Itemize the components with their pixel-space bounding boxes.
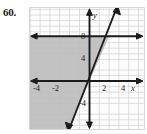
plot-svg <box>30 8 144 129</box>
y-tick-label-8: 8 <box>81 32 85 41</box>
x-tick-label--4: -4 <box>33 84 40 93</box>
coordinate-graph: -4 -2 2 4 8 4 -4 x y <box>29 7 145 130</box>
graph-plot-area: -4 -2 2 4 8 4 -4 x y <box>30 8 144 129</box>
y-axis-label: y <box>93 11 97 20</box>
shaded-solution-region <box>30 36 109 129</box>
x-axis-label: x <box>131 84 135 93</box>
problem-number: 60. <box>3 6 16 18</box>
boundary-y8-arrow-right <box>137 33 144 39</box>
x-tick-label--2: -2 <box>52 84 59 93</box>
x-tick-label-4: 4 <box>121 84 125 93</box>
y-tick-label--4: -4 <box>79 99 86 108</box>
x-tick-label-2: 2 <box>102 84 106 93</box>
y-tick-label-4: 4 <box>81 54 85 63</box>
x-axis-arrow-right <box>137 78 144 84</box>
figure-container: 60. <box>0 0 147 134</box>
